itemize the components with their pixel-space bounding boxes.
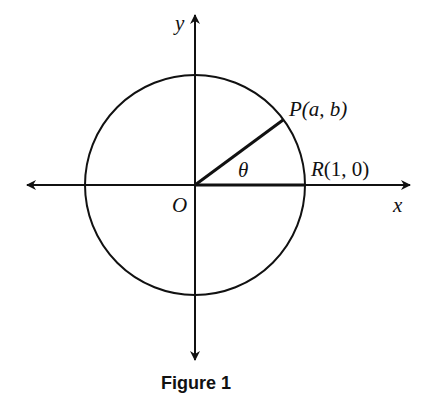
unit-circle-diagram: y x O θ P(a, b) R(1, 0) Figure 1 <box>0 0 434 395</box>
origin-label: O <box>172 193 187 217</box>
point-p-label: P(a, b) <box>288 97 347 121</box>
y-axis-label: y <box>173 11 185 35</box>
point-r-label: R(1, 0) <box>310 157 369 181</box>
figure-caption: Figure 1 <box>161 373 231 393</box>
theta-label: θ <box>238 158 248 182</box>
x-axis-label: x <box>392 193 403 217</box>
